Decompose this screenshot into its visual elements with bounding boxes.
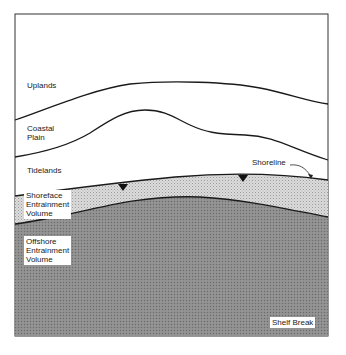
shelf-break-label: Shelf Break <box>270 317 315 328</box>
shoreline-label: Shoreline <box>252 158 286 167</box>
tidelands-label: Tidelands <box>27 166 61 175</box>
offshore-label-line: Volume <box>26 255 69 264</box>
coastal-plain-label-line: Plain <box>27 133 54 142</box>
offshore-label-line: Offshore <box>26 237 69 246</box>
shoreface-label-line: Volume <box>26 209 69 218</box>
offshore-label-line: Entrainment <box>26 246 69 255</box>
uplands-label: Uplands <box>27 81 56 90</box>
coastal-plain-label-line: Coastal <box>27 124 54 133</box>
shoreface-label-line: Entrainment <box>26 200 69 209</box>
offshore-label: Offshore Entrainment Volume <box>24 236 71 265</box>
shoreface-label: Shoreface Entrainment Volume <box>24 190 71 219</box>
coastal-cross-section-diagram <box>0 0 346 355</box>
coastal-plain-label: Coastal Plain <box>27 124 54 142</box>
shoreface-label-line: Shoreface <box>26 191 69 200</box>
